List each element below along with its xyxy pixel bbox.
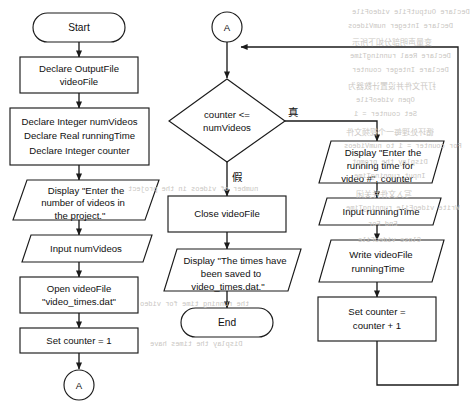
close-file-label: Close videoFile: [194, 208, 260, 219]
display-saved-line3: video_times.dat.": [191, 281, 264, 292]
node-connector-a-bottom: A: [64, 370, 94, 400]
node-set-counter-1: Set counter = 1: [20, 328, 138, 353]
input-numvideos-label: Input numVideos: [50, 243, 122, 254]
write-file-line2: runningTime: [352, 263, 405, 274]
increment-counter-line1: Set counter =: [348, 306, 406, 317]
open-file-line2: "video_times.dat": [42, 296, 116, 307]
node-write-file: Write videoFile runningTime: [319, 240, 444, 282]
increment-counter-line2: counter + 1: [353, 320, 401, 331]
declare-outputfile-line2: videoFile: [60, 76, 98, 87]
end-label: End: [218, 317, 236, 328]
edge-decision-true-to-display-running: [285, 121, 377, 141]
open-file-line1: Open videoFile: [47, 283, 112, 294]
display-prompt-line1: Display "Enter the: [48, 185, 124, 196]
display-saved-line1: Display "The times have: [183, 255, 286, 266]
decision-line1: counter <=: [204, 109, 250, 120]
write-file-line1: Write videoFile: [349, 249, 412, 260]
decision-shape: [169, 79, 285, 162]
display-prompt-line2: number of videos in: [41, 197, 125, 208]
node-close-file: Close videoFile: [168, 196, 286, 232]
node-open-file: Open videoFile "video_times.dat": [20, 277, 138, 313]
connector-a-bottom-label: A: [76, 380, 83, 391]
connector-a-top-label: A: [224, 22, 231, 33]
flowchart-canvas: Start Declare OutputFile videoFile Decla…: [0, 0, 471, 405]
set-counter-1-label: Set counter = 1: [46, 335, 111, 346]
display-saved-line2: been saved to: [201, 268, 261, 279]
write-file-shape: [319, 240, 444, 282]
node-connector-a-top: A: [212, 12, 242, 42]
declare-outputfile-line1: Declare OutputFile: [39, 63, 119, 74]
node-input-numvideos: Input numVideos: [22, 235, 152, 262]
start-label: Start: [68, 22, 90, 33]
declare-vars-line1: Declare Integer numVideos: [21, 116, 137, 127]
display-running-prompt-line2: running time for: [347, 160, 414, 171]
decision-line2: numVideos: [203, 122, 251, 133]
declare-vars-line3: Declare Integer counter: [29, 145, 130, 156]
display-running-prompt-line3: video #", counter: [341, 173, 413, 184]
node-display-prompt: Display "Enter the number of videos in t…: [13, 180, 159, 221]
branch-label-false: 假: [232, 171, 243, 183]
declare-vars-line2: Declare Real runningTime: [24, 130, 135, 141]
branch-label-true: 真: [288, 106, 298, 118]
node-end: End: [181, 308, 273, 337]
node-declare-outputfile: Declare OutputFile videoFile: [20, 57, 138, 93]
node-start: Start: [33, 13, 125, 42]
display-prompt-line3: the project.": [55, 210, 106, 221]
node-decision: counter <= numVideos: [169, 79, 285, 162]
node-display-saved: Display "The times have been saved to vi…: [164, 249, 301, 292]
flowchart-svg: Start Declare OutputFile videoFile Decla…: [0, 0, 471, 405]
input-runningtime-label: Input runningTime: [343, 206, 420, 217]
node-input-runningtime: Input runningTime: [319, 198, 441, 225]
node-increment-counter: Set counter = counter + 1: [318, 297, 436, 341]
display-running-prompt-line1: Display "Enter the: [345, 147, 421, 158]
node-declare-vars: Declare Integer numVideos Declare Real r…: [10, 108, 149, 165]
node-display-running-prompt: Display "Enter the running time for vide…: [319, 141, 444, 184]
